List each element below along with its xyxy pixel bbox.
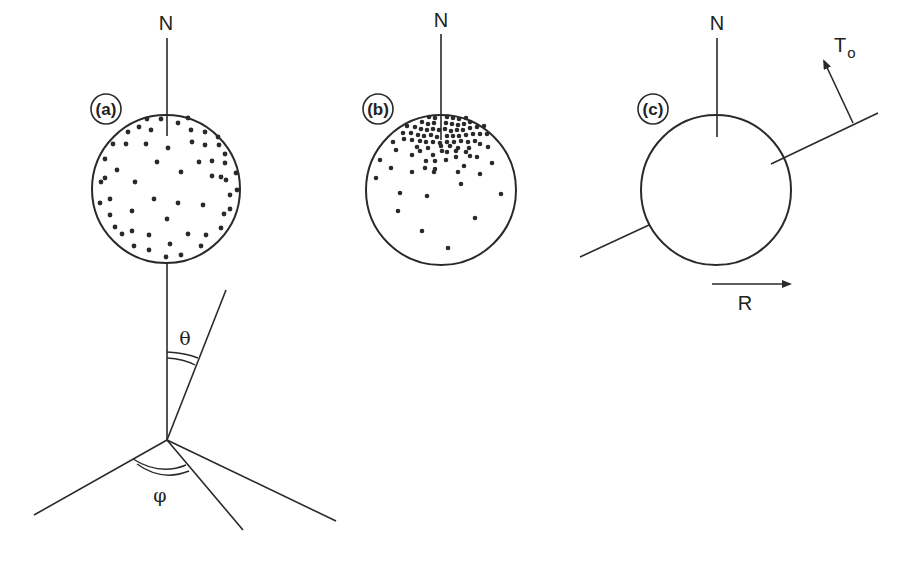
- torque-label: To: [834, 34, 856, 61]
- rotation-label: R: [738, 292, 752, 314]
- rotation-axis-lower: [580, 225, 649, 257]
- panel-a: N (a) θ: [34, 12, 336, 530]
- svg-text:(b): (b): [367, 100, 389, 119]
- phi-label: φ: [153, 484, 166, 506]
- theta-ray: [167, 290, 226, 440]
- rotation-axis-upper: [771, 113, 878, 164]
- svg-text:(a): (a): [96, 100, 117, 119]
- panel-b: N (b): [363, 9, 516, 265]
- phi-ray-right: [167, 440, 336, 521]
- dots-polar-cluster: [374, 115, 504, 251]
- phi-arc-outer: [133, 459, 186, 469]
- theta-arc-inner: [167, 358, 195, 365]
- north-label-b: N: [434, 9, 448, 31]
- sphere-c: [641, 115, 791, 265]
- theta-arc-outer: [167, 352, 198, 358]
- north-label-a: N: [159, 12, 173, 34]
- panel-label-b: (b): [363, 94, 393, 124]
- north-label-c: N: [710, 12, 724, 34]
- diagram-canvas: N (a) θ: [0, 0, 906, 561]
- dots-uniform: [98, 116, 240, 260]
- phi-ray-left: [34, 440, 167, 515]
- theta-label: θ: [179, 327, 190, 349]
- panel-label-c: (c): [638, 94, 668, 124]
- panel-c: N (c) To R: [580, 12, 878, 314]
- panel-label-a: (a): [91, 94, 121, 124]
- diagram-svg: N (a) θ: [0, 0, 906, 561]
- torque-arrow-icon: [824, 61, 853, 123]
- svg-text:(c): (c): [643, 100, 664, 119]
- projection-ray: [167, 440, 243, 530]
